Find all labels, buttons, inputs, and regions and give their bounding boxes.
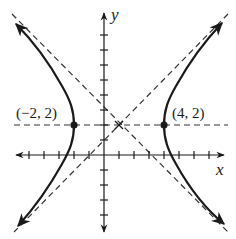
hyperbola-right-branch-lower [164, 125, 224, 224]
y-axis-label: y [109, 5, 119, 24]
vertex-right-label: (4, 2) [172, 105, 205, 122]
vertex-left-label: (−2, 2) [16, 105, 57, 122]
x-axis [16, 151, 224, 159]
y-axis [100, 13, 108, 232]
vertex-left-dot [70, 121, 77, 128]
x-axis-label: x [215, 160, 224, 179]
hyperbola-left-branch-lower [18, 125, 74, 226]
asymptote-negative-slope [12, 14, 228, 232]
asymptotes [12, 14, 228, 232]
vertex-right-dot [160, 121, 167, 128]
hyperbola-graph: (−2, 2) (4, 2) x y [0, 0, 236, 239]
